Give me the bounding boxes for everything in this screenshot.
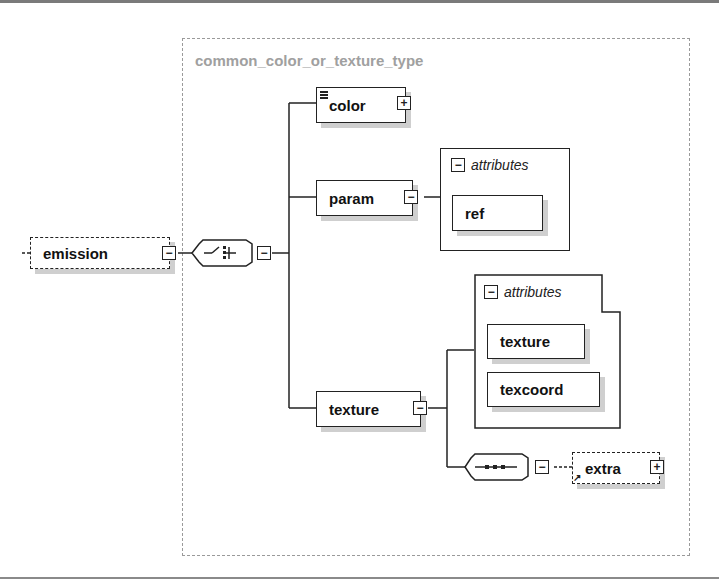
emission-label: emission — [31, 245, 108, 262]
ref-label: ref — [453, 205, 484, 222]
texture-attributes-label: attributes — [504, 284, 562, 300]
texture-element[interactable]: texture — [316, 391, 421, 427]
color-element[interactable]: color — [316, 87, 406, 123]
choice-collapse-button[interactable]: − — [257, 246, 271, 260]
sequence-icon — [465, 454, 528, 480]
attributes-collapse-button[interactable]: − — [451, 158, 465, 172]
texcoord-attribute-label: texcoord — [488, 381, 563, 398]
texture-attribute-label: texture — [488, 333, 550, 350]
reference-arrow-icon: ↗ — [573, 472, 581, 483]
texture-attributes-collapse-button[interactable]: − — [484, 285, 498, 299]
param-element[interactable]: param — [316, 180, 413, 216]
emission-element[interactable]: emission — [30, 237, 170, 269]
ref-attribute[interactable]: ref — [452, 195, 543, 231]
texture-collapse-button[interactable]: − — [413, 401, 427, 415]
texture-label: texture — [317, 401, 379, 418]
attributes-label: attributes — [471, 157, 529, 173]
color-expand-button[interactable]: + — [397, 96, 411, 110]
extra-expand-button[interactable]: + — [650, 460, 664, 474]
param-collapse-button[interactable]: − — [404, 190, 418, 204]
documentation-icon — [320, 91, 328, 100]
texture-attributes-header: − attributes — [484, 284, 562, 300]
attributes-header: − attributes — [451, 157, 529, 173]
sequence-collapse-button[interactable]: − — [535, 460, 549, 474]
texcoord-attribute[interactable]: texcoord — [487, 372, 600, 407]
sequence-compositor[interactable] — [465, 454, 528, 480]
choice-icon — [192, 240, 252, 266]
texture-attribute[interactable]: texture — [487, 324, 585, 359]
choice-compositor[interactable] — [192, 240, 252, 266]
emission-collapse-button[interactable]: − — [162, 246, 176, 260]
param-label: param — [317, 190, 374, 207]
extra-element[interactable]: extra — [572, 452, 660, 484]
